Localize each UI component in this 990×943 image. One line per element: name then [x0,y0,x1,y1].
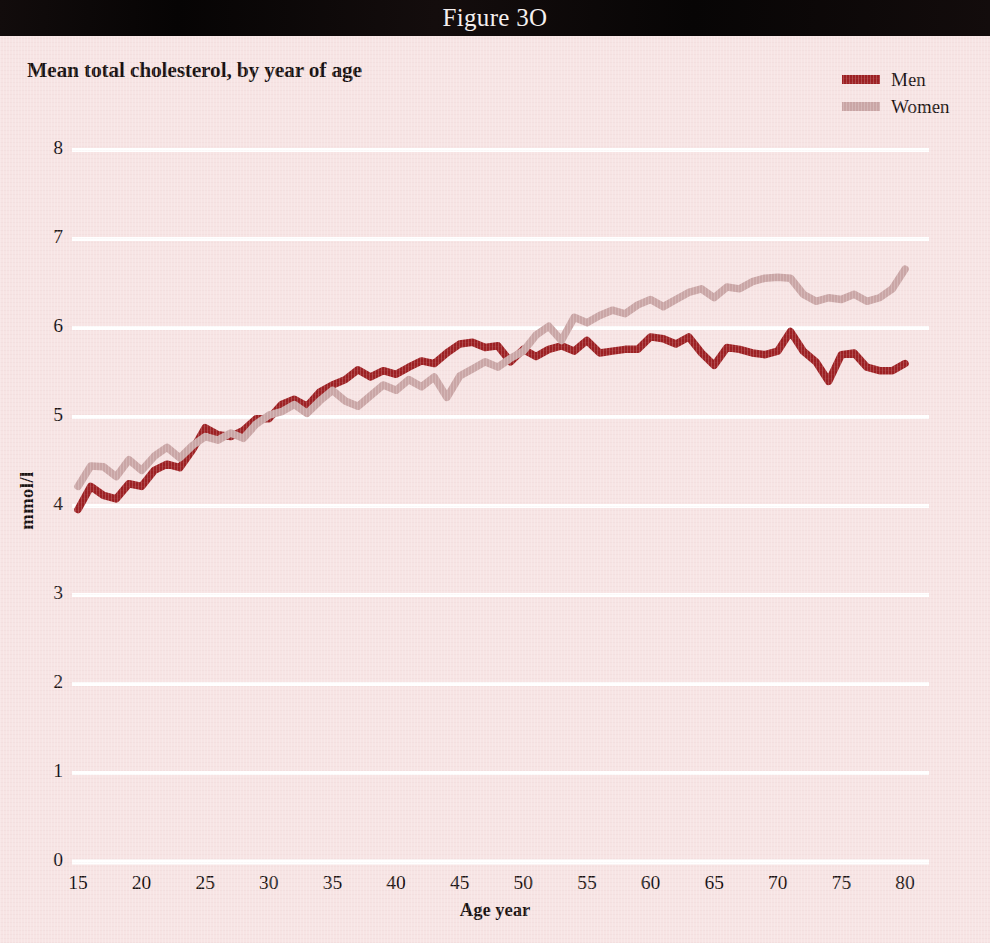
y-axis-tick-label: 1 [23,760,63,782]
x-axis-tick-label: 55 [564,872,610,894]
y-axis-tick-label: 6 [23,315,63,337]
x-axis-tick-label: 65 [691,872,737,894]
series-line-women [78,269,905,486]
x-axis-tick-label: 75 [818,872,864,894]
y-axis-tick-label: 5 [23,404,63,426]
x-axis-tick-label: 40 [373,872,419,894]
y-axis-tick-label: 3 [23,582,63,604]
x-axis-tick-label: 70 [755,872,801,894]
x-axis-tick-label: 80 [882,872,928,894]
x-axis-title: Age year [0,900,990,921]
y-axis-tick-label: 8 [23,137,63,159]
plot-area: 876543210 1520253035404550556065707580 [0,0,990,943]
y-axis-title: mmol/l [17,446,38,556]
x-axis-tick-label: 60 [628,872,674,894]
figure-container: Figure 3O Mean total cholesterol, by yea… [0,0,990,943]
y-axis-tick-label: 2 [23,671,63,693]
x-axis-tick-label: 35 [309,872,355,894]
x-axis-tick-label: 25 [182,872,228,894]
series-group [78,269,905,509]
y-axis-tick-label: 0 [23,849,63,871]
x-axis-tick-label: 50 [500,872,546,894]
series-line-men [78,332,905,510]
x-axis-tick-label: 45 [437,872,483,894]
y-axis-tick-label: 7 [23,226,63,248]
gridlines-group [72,150,929,862]
x-axis-tick-label: 30 [246,872,292,894]
x-axis-tick-label: 20 [119,872,165,894]
plot-svg [0,0,990,943]
x-axis-tick-label: 15 [55,872,101,894]
